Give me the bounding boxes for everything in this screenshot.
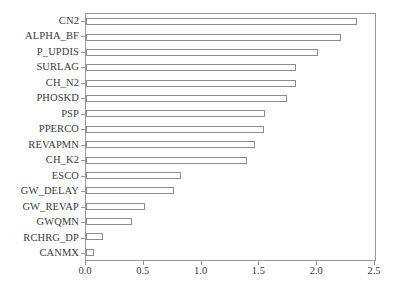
x-tick-label: 1.0 [194,266,207,277]
y-axis-category-labels: CN2ALPHA_BFP_UPDISSURLAGCH_N2PHOSKDPSPPP… [0,13,82,261]
y-axis-label: ALPHA_BF [0,29,82,45]
x-tick-label: 2.0 [310,266,323,277]
bar-row [86,106,375,121]
bar [86,141,255,148]
bar [86,49,318,56]
bar [86,80,296,87]
bar [86,249,94,256]
y-axis-label: GW_REVAP [0,199,82,215]
y-axis-label: REVAPMN [0,137,82,153]
bar-row [86,137,375,152]
x-tick-label: 1.5 [252,266,265,277]
bar-row [86,152,375,167]
y-axis-label: ESCO [0,168,82,184]
bar-row [86,91,375,106]
bar-chart: CN2ALPHA_BFP_UPDISSURLAGCH_N2PHOSKDPSPPP… [0,0,399,300]
y-axis-label: PPERCO [0,122,82,138]
bar [86,110,265,117]
bar-row [86,168,375,183]
y-axis-label: GW_DELAY [0,184,82,200]
bar-row [86,229,375,244]
y-axis-label: CH_K2 [0,153,82,169]
bar-row [86,29,375,44]
bar-row [86,76,375,91]
y-axis-label: RCHRG_DP [0,230,82,246]
bar-series [86,14,375,260]
y-axis-label: PSP [0,106,82,122]
bar [86,218,132,225]
x-axis-tick-labels: 0.00.51.01.52.02.5 [0,266,399,282]
bar-row [86,14,375,29]
bar [86,126,264,133]
y-axis-label: CH_N2 [0,75,82,91]
y-axis-label: P_UPDIS [0,44,82,60]
bar-row [86,199,375,214]
bar [86,233,103,240]
bar-row [86,45,375,60]
bar-row [86,183,375,198]
y-axis-label: PHOSKD [0,91,82,107]
bar [86,18,357,25]
bar-row [86,214,375,229]
y-axis-label: SURLAG [0,60,82,76]
y-axis-label: CANMX [0,246,82,262]
bar-row [86,60,375,75]
x-tick-label: 2.5 [367,266,380,277]
bar [86,187,174,194]
y-axis-label: GWQMN [0,215,82,231]
bar [86,95,287,102]
bar [86,64,296,71]
x-tick-label: 0.5 [136,266,149,277]
bar [86,157,247,164]
x-tick-label: 0.0 [78,266,91,277]
bar-row [86,245,375,260]
bar [86,203,145,210]
bar-row [86,122,375,137]
y-axis-label: CN2 [0,13,82,29]
bar [86,172,181,179]
bar [86,34,341,41]
